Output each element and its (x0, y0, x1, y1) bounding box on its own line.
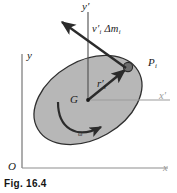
y-prime-axis-label: y′ (82, 1, 89, 12)
center-of-mass-label: G (70, 94, 78, 105)
particle-label: Pi (148, 57, 157, 70)
y-axis-label: y (27, 50, 32, 61)
figure-16-4: y′ v′i Δmi Pi y x′ G r′i ω O x Fig. 16.4 (0, 0, 177, 193)
figure-caption: Fig. 16.4 (4, 178, 47, 189)
figure-diagram (0, 0, 177, 193)
x-prime-axis-label: x′ (159, 91, 166, 102)
origin-label: O (8, 161, 16, 172)
center-of-mass-point (86, 98, 90, 102)
momentum-vector-label: v′i Δmi (92, 24, 121, 35)
position-vector-label: r′i (97, 78, 106, 91)
angular-velocity-label: ω (78, 131, 82, 138)
x-axis-label: x (163, 163, 168, 174)
